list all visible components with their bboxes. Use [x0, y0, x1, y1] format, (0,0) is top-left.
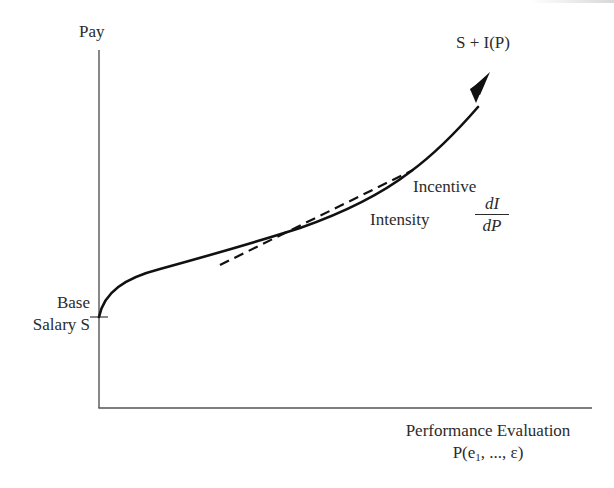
base-salary-label: Base Salary S — [20, 292, 90, 336]
incentive-label-line1: Incentive — [413, 177, 476, 197]
y-axis-label: Pay — [79, 22, 105, 42]
curve-label: S + I(P) — [456, 33, 510, 53]
fraction-denominator: dP — [483, 216, 502, 235]
base-salary-line1: Base — [20, 292, 90, 314]
x-axis-label: Performance Evaluation P(e1, ..., ε) — [377, 420, 599, 468]
pay-schedule-diagram — [0, 0, 614, 488]
base-salary-line2: Salary S — [20, 314, 90, 336]
incentive-label-line2: Intensity — [370, 210, 430, 230]
derivative-fraction: dI dP — [475, 194, 509, 235]
x-axis-label-line2: P(e1, ..., ε) — [377, 442, 599, 468]
fraction-bar — [475, 214, 509, 215]
x-axis-label-prefix: P(e — [453, 443, 476, 462]
x-axis-label-line1: Performance Evaluation — [377, 420, 599, 442]
fraction-numerator: dI — [483, 194, 501, 213]
x-axis-label-suffix: , ..., ε) — [481, 443, 524, 462]
